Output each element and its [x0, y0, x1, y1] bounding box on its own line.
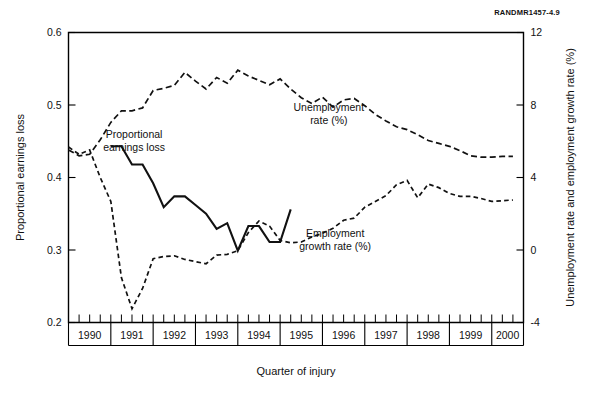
x-axis-year-label: 1993	[205, 329, 229, 341]
y-axis-tick-label: 0.2	[47, 316, 62, 328]
x-axis-year-label: 1994	[247, 329, 271, 341]
x-axis-year-label: 2000	[496, 329, 520, 341]
plot-frame	[69, 33, 524, 323]
x-axis-year-label: 1997	[374, 329, 398, 341]
y-axis-tick-label: 0.3	[47, 244, 62, 256]
y-axis-title: Proportional earnings loss	[14, 113, 26, 241]
series-annotation-label: earnings loss	[103, 141, 165, 153]
series-line	[69, 147, 513, 309]
line-chart: 0.20.30.40.50.6-404812199019911992199319…	[0, 0, 594, 393]
y-axis-tick-label: 0.4	[47, 171, 62, 183]
x-axis-year-label: 1990	[78, 329, 102, 341]
series-annotation-label: rate (%)	[310, 114, 347, 126]
x-axis-year-label: 1998	[417, 329, 441, 341]
x-axis-year-label: 1991	[120, 329, 144, 341]
x-axis-year-label: 1999	[459, 329, 483, 341]
y2-axis-tick-label: 0	[531, 244, 537, 256]
series-annotation-label: growth rate (%)	[299, 240, 371, 252]
x-axis-year-label: 1995	[290, 329, 314, 341]
series-annotation-label: Unemployment	[293, 101, 364, 113]
y2-axis-title: Unemployment rate and employment growth …	[564, 48, 576, 307]
y-axis-tick-label: 0.5	[47, 99, 62, 111]
x-axis-year-label: 1996	[332, 329, 356, 341]
y2-axis-tick-label: 4	[531, 171, 537, 183]
x-axis-title: Quarter of injury	[257, 365, 336, 377]
figure-root: RANDMR1457-4.9 0.20.30.40.50.6-404812199…	[0, 0, 594, 393]
series-line	[111, 146, 291, 250]
y2-axis-tick-label: 12	[531, 26, 543, 38]
y-axis-tick-label: 0.6	[47, 26, 62, 38]
x-axis-year-label: 1992	[163, 329, 187, 341]
series-annotation-label: Proportional	[106, 128, 163, 140]
y2-axis-tick-label: 8	[531, 99, 537, 111]
y2-axis-tick-label: -4	[531, 316, 540, 328]
series-annotation-label: Employment	[306, 227, 364, 239]
